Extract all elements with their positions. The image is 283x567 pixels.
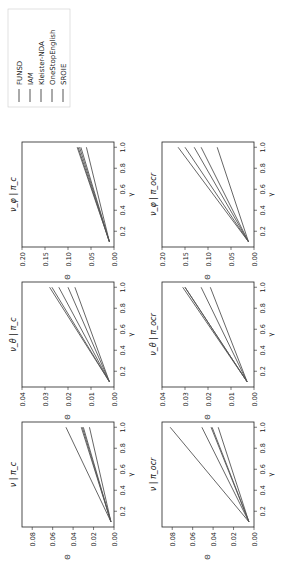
y-tick-label: 0.08 xyxy=(169,532,177,546)
y-axis-label: Θ xyxy=(64,554,72,560)
series-line-onestopenglish xyxy=(201,287,247,382)
y-tick-label: 0.04 xyxy=(210,532,218,546)
x-tick-label: 0.6 xyxy=(259,464,267,474)
series-line-sroie xyxy=(217,147,248,242)
y-axis-label: Θ xyxy=(204,274,212,280)
x-tick-label: 0.2 xyxy=(259,506,267,516)
y-tick-label: 0.00 xyxy=(251,532,259,546)
y-tick-label: 0.02 xyxy=(205,392,213,406)
legend-label: Kleister-NDA xyxy=(38,41,46,85)
y-tick-label: 0.05 xyxy=(228,252,236,266)
y-tick-label: 0.15 xyxy=(42,252,50,266)
y-tick-label: 0.10 xyxy=(65,252,73,266)
y-tick-label: 0.02 xyxy=(90,532,98,546)
x-tick-label: 0.6 xyxy=(119,464,127,474)
x-tick-label: 0.4 xyxy=(119,345,127,355)
x-tick-label: 1.0 xyxy=(119,142,127,152)
y-tick-label: 0.03 xyxy=(182,392,190,406)
x-tick-label: 0.6 xyxy=(119,324,127,334)
x-tick-label: 0.8 xyxy=(119,443,127,453)
y-tick-label: 0.00 xyxy=(111,532,119,546)
x-tick-label: 0.4 xyxy=(259,205,267,215)
panel-title: ν_θ | π_c xyxy=(9,317,18,352)
y-tick-label: 0.06 xyxy=(49,532,57,546)
series-line-iam xyxy=(202,427,249,522)
panel-title: ν_φ | π_c xyxy=(9,177,18,212)
y-tick-label: 0.04 xyxy=(19,392,27,406)
series-line-onestopenglish xyxy=(201,147,248,242)
x-axis-label: γ xyxy=(267,332,275,336)
series-line-sroie xyxy=(218,427,249,522)
series-line-funsd xyxy=(178,147,248,242)
y-tick-label: 0.00 xyxy=(111,392,119,406)
x-axis-label: γ xyxy=(267,472,275,476)
y-tick-label: 0.00 xyxy=(251,252,259,266)
legend-label: FUNSD xyxy=(16,61,24,85)
series-line-funsd xyxy=(66,427,111,522)
x-tick-label: 0.4 xyxy=(119,205,127,215)
y-tick-label: 0.10 xyxy=(205,252,213,266)
plot-frame xyxy=(22,282,114,387)
figure: ν | π_c0.000.020.040.060.080.20.40.60.81… xyxy=(0,0,283,567)
series-line-onestopenglish xyxy=(68,287,109,382)
x-axis-label: γ xyxy=(127,472,135,476)
x-tick-label: 0.4 xyxy=(119,485,127,495)
y-axis-label: Θ xyxy=(204,414,212,420)
x-tick-label: 1.0 xyxy=(259,142,267,152)
y-tick-label: 0.02 xyxy=(65,392,73,406)
y-axis-label: Θ xyxy=(64,274,72,280)
y-tick-label: 0.20 xyxy=(19,252,27,266)
y-tick-label: 0.02 xyxy=(230,532,238,546)
series-line-sroie xyxy=(75,287,110,382)
x-tick-label: 0.6 xyxy=(259,324,267,334)
y-tick-label: 0.01 xyxy=(228,392,236,406)
chart-figure: ν | π_c0.000.020.040.060.080.20.40.60.81… xyxy=(0,0,283,567)
x-axis-label: γ xyxy=(127,332,135,336)
series-line-iam xyxy=(52,287,110,382)
panel-title: ν | π_c xyxy=(9,461,18,487)
x-tick-label: 0.8 xyxy=(119,163,127,173)
y-tick-label: 0.03 xyxy=(42,392,50,406)
x-tick-label: 0.2 xyxy=(119,366,127,376)
y-axis-label: Θ xyxy=(204,554,212,560)
legend-label: OneStopEnglish xyxy=(49,30,57,85)
series-line-sroie xyxy=(86,147,109,242)
y-tick-label: 0.08 xyxy=(29,532,37,546)
y-tick-label: 0.20 xyxy=(159,252,167,266)
y-axis-label: Θ xyxy=(64,414,72,420)
x-tick-label: 0.6 xyxy=(259,184,267,194)
x-tick-label: 1.0 xyxy=(259,282,267,292)
legend-label: IAM xyxy=(27,72,35,85)
y-tick-label: 0.06 xyxy=(189,532,197,546)
series-line-onestopenglish xyxy=(83,427,111,522)
series-line-funsd xyxy=(170,427,249,522)
series-line-kleister-nda xyxy=(59,287,110,382)
x-tick-label: 0.8 xyxy=(259,443,267,453)
x-tick-label: 0.6 xyxy=(119,184,127,194)
series-line-onestopenglish xyxy=(81,147,110,242)
y-tick-label: 0.15 xyxy=(182,252,190,266)
series-line-sroie xyxy=(89,427,110,522)
y-tick-label: 0.00 xyxy=(111,252,119,266)
x-tick-label: 0.8 xyxy=(259,163,267,173)
y-tick-label: 0.00 xyxy=(251,392,259,406)
y-tick-label: 0.05 xyxy=(88,252,96,266)
series-line-onestopenglish xyxy=(212,427,249,522)
y-tick-label: 0.01 xyxy=(88,392,96,406)
panel-title: ν | π_ocr xyxy=(149,457,158,491)
panel-title: ν_φ | π_ocr xyxy=(149,172,158,216)
legend-label: SROIE xyxy=(60,64,68,85)
plot-frame xyxy=(22,142,114,247)
x-axis-label: γ xyxy=(267,192,275,196)
y-tick-label: 0.04 xyxy=(159,392,167,406)
x-tick-label: 1.0 xyxy=(119,282,127,292)
x-tick-label: 0.2 xyxy=(119,506,127,516)
x-tick-label: 0.2 xyxy=(259,366,267,376)
x-axis-label: γ xyxy=(127,192,135,196)
x-tick-label: 1.0 xyxy=(119,422,127,432)
x-tick-label: 0.8 xyxy=(259,303,267,313)
x-tick-label: 1.0 xyxy=(259,422,267,432)
panel-title: ν_θ | π_ocr xyxy=(149,313,158,356)
series-line-iam xyxy=(185,147,248,242)
x-tick-label: 0.8 xyxy=(119,303,127,313)
